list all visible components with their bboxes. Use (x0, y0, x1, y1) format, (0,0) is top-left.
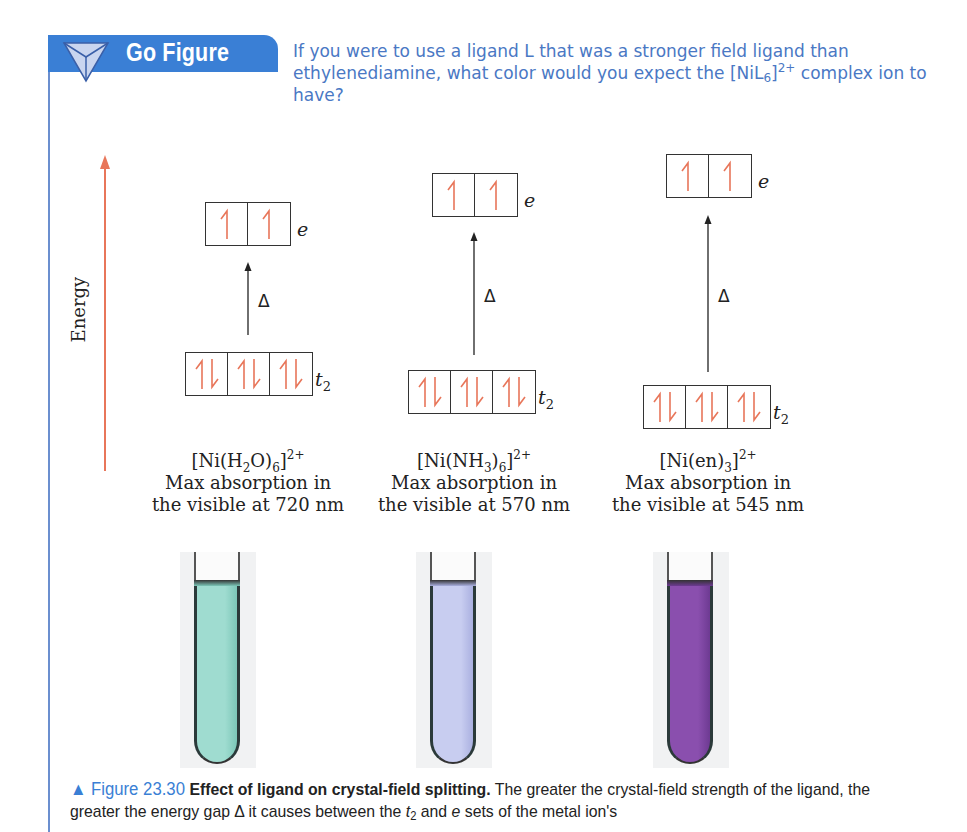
orbital-box (248, 203, 290, 245)
complex-label: [Ni(en)3]2+Max absorption inthe visible … (598, 450, 818, 516)
absorption-line-2: the visible at 545 nm (598, 494, 818, 516)
orbital-box (644, 386, 686, 428)
orbital-box (667, 155, 709, 197)
meniscus (430, 580, 476, 586)
absorption-line-2: the visible at 570 nm (364, 494, 584, 516)
meniscus (667, 580, 713, 586)
solution (194, 580, 240, 764)
orbital-box (493, 371, 535, 413)
electron-up-icon (433, 174, 475, 216)
complex-formula: [Ni(en)3]2+ (598, 450, 818, 472)
e-orbital-set (666, 154, 752, 198)
t2-orbital-set (408, 370, 536, 414)
electron-pair-icon (644, 386, 686, 428)
energy-gap-arrow (702, 215, 714, 372)
energy-gap-arrow (468, 232, 480, 355)
delta-label: Δ (258, 291, 270, 311)
test-tube (667, 552, 713, 764)
electron-pair-icon (270, 353, 312, 395)
crystal-field-diagram: e t2Δ e t2Δ e t2Δ (0, 0, 967, 500)
electron-pair-icon (493, 371, 535, 413)
orbital-box (709, 155, 751, 197)
orbital-box (270, 353, 312, 395)
orbital-box (186, 353, 228, 395)
test-tube-photo (416, 552, 492, 768)
t2-orbital-set (643, 385, 771, 429)
test-tube (194, 552, 240, 764)
orbital-box (409, 371, 451, 413)
electron-up-icon (667, 155, 709, 197)
electron-up-icon (248, 203, 290, 245)
orbital-box (728, 386, 770, 428)
caption-title: Effect of ligand on crystal-field splitt… (189, 780, 490, 799)
t2-set-label: t2 (315, 368, 331, 390)
complex-formula: [Ni(NH3)6]2+ (364, 450, 584, 472)
energy-gap-arrow (242, 262, 254, 335)
tube-glass (430, 552, 476, 582)
complex-label: [Ni(NH3)6]2+Max absorption inthe visible… (364, 450, 584, 516)
figure-number: Figure 23.30 (91, 779, 185, 799)
electron-pair-icon (228, 353, 270, 395)
meniscus (194, 580, 240, 586)
complex-label: [Ni(H2O)6]2+Max absorption inthe visible… (138, 450, 358, 516)
tube-glass (194, 552, 240, 582)
caption-marker-icon: ▲ (70, 779, 87, 799)
caption-text-3: sets of the metal ion's (460, 802, 617, 821)
e-set-label: e (758, 170, 769, 192)
e-orbital-set (432, 173, 518, 217)
electron-pair-icon (686, 386, 728, 428)
absorption-line-2: the visible at 720 nm (138, 494, 358, 516)
electron-pair-icon (728, 386, 770, 428)
orbital-box (433, 174, 475, 216)
orbital-box (451, 371, 493, 413)
test-tube (430, 552, 476, 764)
electron-up-icon (475, 174, 517, 216)
tube-glass (667, 552, 713, 582)
test-tube-photo (180, 552, 256, 768)
t2-set-label: t2 (773, 401, 789, 423)
electron-up-icon (206, 203, 248, 245)
absorption-line-1: Max absorption in (138, 472, 358, 494)
figure-caption: ▲ Figure 23.30 Effect of ligand on cryst… (70, 778, 898, 823)
e-set-label: e (524, 189, 535, 211)
orbital-box (475, 174, 517, 216)
orbital-box (686, 386, 728, 428)
t2-set-label: t2 (538, 386, 554, 408)
e-set-label: e (297, 218, 308, 240)
absorption-line-1: Max absorption in (598, 472, 818, 494)
electron-up-icon (709, 155, 751, 197)
complex-formula: [Ni(H2O)6]2+ (138, 450, 358, 472)
caption-e-label: e (452, 802, 461, 821)
t2-orbital-set (185, 352, 313, 396)
orbital-box (206, 203, 248, 245)
solution (667, 580, 713, 764)
e-orbital-set (205, 202, 291, 246)
orbital-box (228, 353, 270, 395)
delta-label: Δ (484, 286, 496, 306)
electron-pair-icon (186, 353, 228, 395)
electron-pair-icon (451, 371, 493, 413)
electron-pair-icon (409, 371, 451, 413)
caption-text-2: and (416, 802, 451, 821)
solution (430, 580, 476, 764)
test-tube-photo (653, 552, 729, 768)
absorption-line-1: Max absorption in (364, 472, 584, 494)
delta-label: Δ (718, 286, 730, 306)
